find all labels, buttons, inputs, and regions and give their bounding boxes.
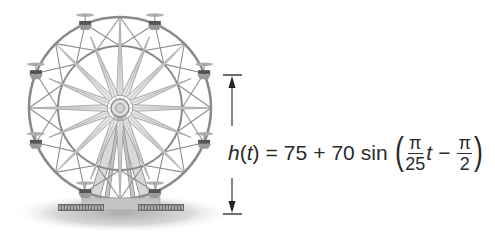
gondola <box>27 132 45 149</box>
height-formula: h(t) = 75 + 70 sin ( π 25 t − π 2 ) <box>226 128 486 178</box>
ferris-wheel-diagram <box>0 0 495 239</box>
formula-sin: sin <box>361 141 388 165</box>
formula-close-paren: ) <box>474 132 483 170</box>
ferris-wheel <box>27 13 213 211</box>
formula-equals: = <box>266 141 278 165</box>
formula-midline: 75 <box>284 141 307 165</box>
formula-plus: + <box>313 141 325 165</box>
gondola <box>27 62 45 79</box>
arrow-up-icon <box>229 76 236 88</box>
gondola <box>195 62 213 79</box>
formula-variable-t: t <box>426 141 432 165</box>
gondola <box>195 132 213 149</box>
formula-fraction-angular-frequency: π 25 <box>405 134 425 173</box>
fraction-denominator: 25 <box>405 154 425 173</box>
formula-lhs-close-paren: ) <box>253 141 260 165</box>
formula-function-name: h <box>228 141 240 165</box>
fraction-numerator: π <box>457 134 471 154</box>
formula-minus: − <box>438 141 450 165</box>
hub <box>111 99 129 117</box>
fraction-numerator: π <box>408 134 422 154</box>
formula-amplitude: 70 <box>331 141 354 165</box>
formula-fraction-phase-shift: π 2 <box>457 134 471 173</box>
fraction-denominator: 2 <box>460 154 470 173</box>
formula-open-paren: ( <box>395 132 404 170</box>
formula-lhs-open-paren: ( <box>240 141 247 165</box>
